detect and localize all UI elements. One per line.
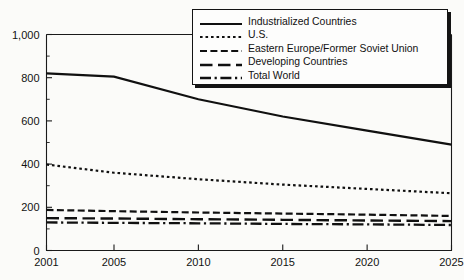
series-line-2 bbox=[47, 210, 452, 216]
x-axis-tick-label: 2001 bbox=[34, 256, 58, 268]
y-axis-tick-label: 600 bbox=[21, 115, 39, 127]
x-axis-tick-label: 2025 bbox=[439, 256, 463, 268]
y-axis-tick-label: 1,000 bbox=[12, 29, 40, 41]
legend-line-sample-icon bbox=[199, 57, 243, 69]
legend-item: U.S. bbox=[199, 29, 447, 43]
legend-item-label: Developing Countries bbox=[248, 57, 347, 67]
legend-line-sample-icon bbox=[199, 70, 243, 82]
series-line-3 bbox=[47, 218, 452, 221]
legend-item-label: U.S. bbox=[248, 30, 268, 40]
x-axis-tick-label: 2010 bbox=[186, 256, 210, 268]
series-line-4 bbox=[47, 222, 452, 225]
legend-item-label: Total World bbox=[248, 71, 300, 81]
legend-item: Total World bbox=[199, 69, 447, 83]
x-axis-tick-label: 2015 bbox=[271, 256, 295, 268]
legend-line-sample-icon bbox=[199, 29, 243, 41]
y-axis-labels: 02004006008001,000 bbox=[12, 29, 40, 257]
y-axis-tick-label: 400 bbox=[21, 158, 39, 170]
legend-item: Developing Countries bbox=[199, 56, 447, 70]
legend-item-label: Eastern Europe/Former Soviet Union bbox=[248, 44, 418, 54]
legend-item-label: Industrialized Countries bbox=[248, 17, 357, 27]
series-line-1 bbox=[47, 165, 452, 194]
chart-series-lines bbox=[47, 73, 452, 225]
legend-item: Industrialized Countries bbox=[199, 15, 447, 29]
legend-item: Eastern Europe/Former Soviet Union bbox=[199, 42, 447, 56]
legend-line-sample-icon bbox=[199, 16, 243, 28]
y-axis-tick-label: 800 bbox=[21, 72, 39, 84]
line-chart: 02004006008001,000 200120052010201520202… bbox=[0, 0, 464, 280]
chart-legend: Industrialized CountriesU.S.Eastern Euro… bbox=[192, 9, 448, 85]
y-axis-tick-label: 200 bbox=[21, 201, 39, 213]
x-axis-labels: 200120052010201520202025 bbox=[34, 256, 463, 268]
legend-line-sample-icon bbox=[199, 43, 243, 55]
x-axis-tick-label: 2005 bbox=[102, 256, 126, 268]
x-axis-tick-label: 2020 bbox=[355, 256, 379, 268]
